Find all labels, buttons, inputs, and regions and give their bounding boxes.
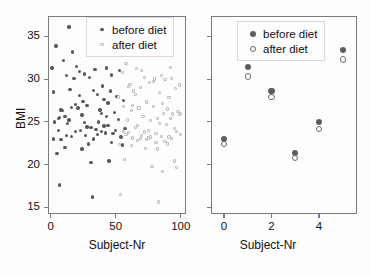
x-tick-mark bbox=[50, 214, 51, 218]
data-point bbox=[122, 99, 125, 102]
data-point bbox=[160, 135, 163, 138]
data-point bbox=[141, 115, 144, 118]
data-point bbox=[169, 117, 172, 120]
data-point bbox=[75, 65, 78, 68]
data-point bbox=[106, 124, 109, 127]
data-point bbox=[131, 136, 134, 139]
data-point bbox=[165, 123, 168, 126]
data-point bbox=[136, 124, 139, 127]
data-point bbox=[113, 111, 116, 114]
data-point bbox=[91, 195, 94, 198]
data-point bbox=[105, 115, 108, 118]
data-point bbox=[93, 68, 96, 71]
data-point bbox=[163, 78, 166, 81]
data-point bbox=[65, 74, 68, 77]
after-diet-marker-icon bbox=[92, 43, 112, 46]
data-point bbox=[124, 62, 127, 65]
data-point bbox=[111, 132, 114, 135]
data-point bbox=[245, 64, 251, 70]
left-y-axis-title: BMI bbox=[14, 108, 28, 129]
data-point bbox=[268, 94, 274, 100]
left-legend-item-before: before diet bbox=[92, 22, 166, 37]
data-point bbox=[121, 71, 124, 74]
data-point bbox=[171, 112, 174, 115]
data-point bbox=[123, 158, 126, 161]
x-tick-label: 50 bbox=[109, 221, 122, 233]
data-point bbox=[340, 56, 346, 62]
data-point bbox=[83, 72, 86, 75]
data-point bbox=[130, 144, 133, 147]
data-point bbox=[161, 102, 164, 105]
data-point bbox=[160, 74, 163, 77]
data-point bbox=[147, 129, 150, 132]
y-tick-mark bbox=[44, 36, 48, 37]
data-point bbox=[70, 106, 73, 109]
data-point bbox=[50, 66, 53, 69]
data-point bbox=[104, 131, 107, 134]
right-legend-item-after: after diet bbox=[243, 41, 317, 56]
data-point bbox=[80, 147, 83, 150]
x-tick-label: 4 bbox=[316, 221, 322, 233]
data-point bbox=[154, 141, 157, 144]
data-point bbox=[52, 137, 55, 140]
x-tick-mark bbox=[271, 214, 272, 218]
data-point bbox=[245, 73, 251, 79]
data-point bbox=[135, 67, 138, 70]
data-point bbox=[89, 161, 92, 164]
data-point bbox=[166, 107, 169, 110]
data-point bbox=[167, 135, 170, 138]
data-point bbox=[96, 93, 99, 96]
data-point bbox=[158, 122, 161, 125]
data-point bbox=[100, 130, 103, 133]
data-point bbox=[149, 119, 152, 122]
data-point bbox=[170, 77, 173, 80]
data-point bbox=[92, 89, 95, 92]
data-point bbox=[134, 93, 137, 96]
x-tick-label: 2 bbox=[268, 221, 274, 233]
data-point bbox=[97, 120, 100, 123]
data-point bbox=[157, 200, 160, 203]
x-tick-label: 0 bbox=[221, 221, 227, 233]
data-point bbox=[62, 59, 65, 62]
data-point bbox=[105, 66, 108, 69]
data-point bbox=[106, 101, 109, 104]
data-point bbox=[92, 137, 95, 140]
data-point bbox=[59, 138, 62, 141]
data-point bbox=[58, 116, 61, 119]
data-point bbox=[74, 130, 77, 133]
data-point bbox=[70, 135, 73, 138]
data-point bbox=[154, 132, 157, 135]
data-point bbox=[110, 141, 113, 144]
data-point bbox=[162, 112, 165, 115]
before-diet-marker-icon bbox=[92, 28, 112, 31]
data-point bbox=[107, 159, 110, 162]
data-point bbox=[152, 105, 155, 108]
data-point bbox=[81, 100, 84, 103]
data-point bbox=[65, 134, 68, 137]
data-point bbox=[161, 170, 164, 173]
data-point bbox=[55, 152, 58, 155]
left-legend-label-after: after diet bbox=[112, 39, 157, 51]
before-diet-marker-icon bbox=[243, 31, 263, 37]
data-point bbox=[163, 140, 166, 143]
data-point bbox=[58, 183, 61, 186]
data-point bbox=[66, 122, 69, 125]
data-point bbox=[100, 112, 103, 115]
data-point bbox=[316, 126, 322, 132]
data-point bbox=[147, 136, 150, 139]
data-point bbox=[221, 141, 227, 147]
data-point bbox=[101, 84, 104, 87]
data-point bbox=[83, 121, 86, 124]
right-legend-label-before: before diet bbox=[263, 28, 317, 40]
data-point bbox=[175, 130, 178, 133]
data-point bbox=[139, 137, 142, 140]
data-point bbox=[292, 155, 298, 161]
data-point bbox=[72, 77, 75, 80]
data-point bbox=[144, 147, 147, 150]
data-point bbox=[122, 105, 125, 108]
y-tick-mark bbox=[207, 207, 211, 208]
data-point bbox=[85, 125, 88, 128]
data-point bbox=[85, 104, 88, 107]
data-point bbox=[102, 98, 105, 101]
data-point bbox=[117, 95, 120, 98]
